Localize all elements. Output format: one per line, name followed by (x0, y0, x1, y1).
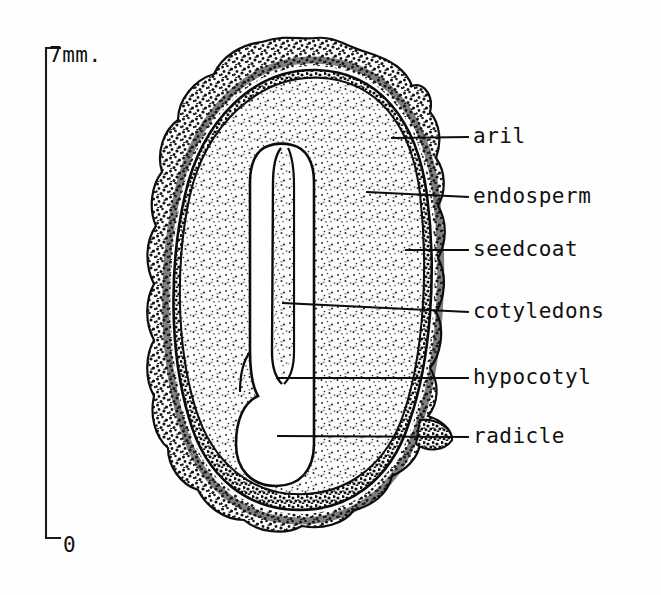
label-seedcoat: seedcoat (473, 237, 578, 261)
cotyledon-cleft-fill (274, 150, 293, 382)
label-aril: aril (473, 124, 526, 148)
scale-bar-top-label: 7mm. (49, 43, 102, 67)
leader-line-aril (392, 137, 468, 138)
label-hypocotyl: hypocotyl (473, 365, 591, 389)
label-endosperm: endosperm (473, 184, 591, 208)
leader-line-radicle (278, 436, 468, 437)
seed-diagram-canvas: 7mm. 0 (0, 0, 661, 595)
seed-illustration (130, 25, 470, 555)
scale-bar-bottom-label: 0 (63, 533, 76, 557)
label-radicle: radicle (473, 424, 565, 448)
seed-diagram-figure: 7mm. 0 (0, 0, 661, 595)
label-cotyledons: cotyledons (473, 299, 604, 323)
